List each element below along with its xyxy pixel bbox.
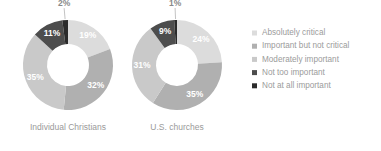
- legend-label[interactable]: Important but not critical: [262, 41, 350, 50]
- legend-swatch: [252, 31, 257, 36]
- legend-swatch: [252, 44, 257, 49]
- slice-label: 2%: [58, 0, 71, 8]
- slice-label: 1%: [169, 0, 182, 8]
- chart-caption: Individual Christians: [30, 122, 106, 132]
- legend-label[interactable]: Not at all important: [262, 81, 331, 90]
- legend-label[interactable]: Absolutely critical: [262, 28, 325, 37]
- legend-swatch: [252, 70, 257, 75]
- slice-label: 11%: [44, 28, 61, 38]
- slice-label: 31%: [134, 60, 151, 70]
- slice-label: 19%: [79, 30, 96, 40]
- slice-label: 9%: [159, 26, 172, 36]
- donut-chart-figure: 19%32%35%11%2%Individual Christians24%35…: [0, 0, 381, 151]
- slice-label: 32%: [87, 80, 104, 90]
- slice-label: 35%: [27, 72, 44, 82]
- legend-label[interactable]: Not too important: [262, 68, 326, 77]
- chart-caption: U.S. churches: [150, 122, 203, 132]
- legend-swatch: [252, 83, 257, 88]
- slice-label: 24%: [192, 34, 209, 44]
- slice-label: 35%: [186, 89, 203, 99]
- legend-swatch: [252, 57, 257, 62]
- legend-label[interactable]: Moderately important: [262, 55, 340, 64]
